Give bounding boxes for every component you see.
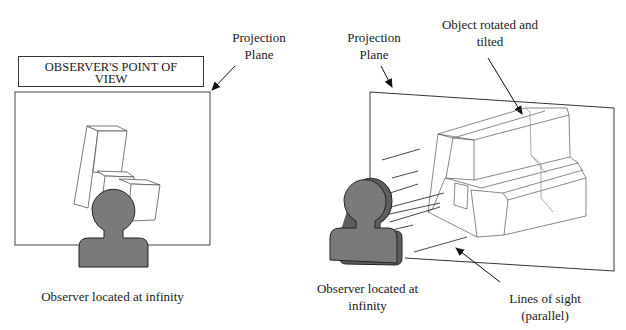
label-line-1: Observer located at (315, 280, 420, 297)
object-rotated-label: Object rotated and tilted (430, 16, 550, 50)
title-line-2: VIEW (19, 73, 203, 85)
label-line-1: Lines of sight (500, 290, 590, 307)
label-line-2: infinity (315, 297, 420, 314)
sight-arrow (456, 248, 500, 282)
label-line-1: Object rotated and (430, 16, 550, 33)
right-observer-label: Observer located at infinity (315, 280, 420, 314)
right-plane-arrow (381, 66, 392, 87)
left-projection-plane-label: Projection Plane (225, 29, 293, 63)
label-line-1: Projection (341, 29, 407, 46)
object-arrow (488, 58, 522, 114)
label-line-2: (parallel) (500, 307, 590, 324)
right-projection-plane-label: Projection Plane (341, 29, 407, 63)
right-projection-plane (370, 92, 614, 271)
observer-view-title-box: OBSERVER'S POINT OF VIEW (18, 56, 204, 87)
left-caption: Observer located at infinity (40, 288, 185, 305)
lines-of-sight-label: Lines of sight (parallel) (500, 290, 590, 324)
right-object-isometric (428, 108, 586, 237)
label-line-2: Plane (341, 46, 407, 63)
label-line-1: Projection (225, 29, 293, 46)
left-plane-arrow (212, 66, 235, 90)
label-line-2: Plane (225, 46, 293, 63)
label-line-2: tilted (430, 33, 550, 50)
